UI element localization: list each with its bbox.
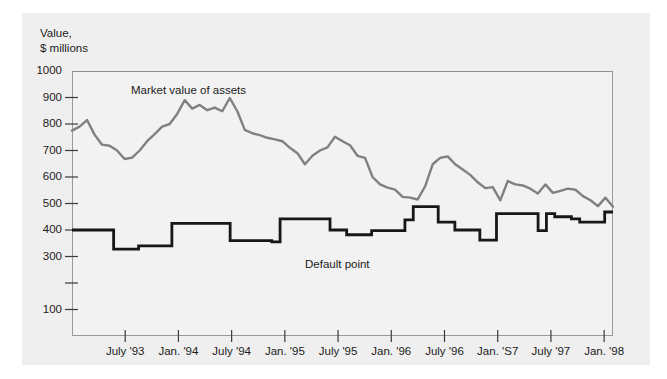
- y-tick-label-1000: 1000: [20, 64, 62, 76]
- y-tick-label-500: 500: [20, 197, 62, 209]
- chart-figure: Value, $ millions 1000900800700600500400…: [0, 0, 667, 379]
- series-annotation-market-value: Market value of assets: [131, 84, 246, 96]
- y-tick-label-600: 600: [20, 170, 62, 182]
- y-tick-label-900: 900: [20, 91, 62, 103]
- y-tick-marks: [65, 71, 78, 310]
- chart-canvas: [0, 0, 667, 379]
- series-annotation-default-point: Default point: [305, 258, 370, 270]
- y-tick-label-100: 100: [20, 303, 62, 315]
- y-tick-label-300: 300: [20, 250, 62, 262]
- series-line-default-point: [72, 207, 613, 249]
- y-tick-label-400: 400: [20, 223, 62, 235]
- x-tick-marks: [125, 330, 604, 342]
- y-tick-label-700: 700: [20, 144, 62, 156]
- x-tick-label-9: Jan. '98: [569, 345, 639, 357]
- series-line-market-value: [72, 98, 613, 207]
- y-tick-label-800: 800: [20, 117, 62, 129]
